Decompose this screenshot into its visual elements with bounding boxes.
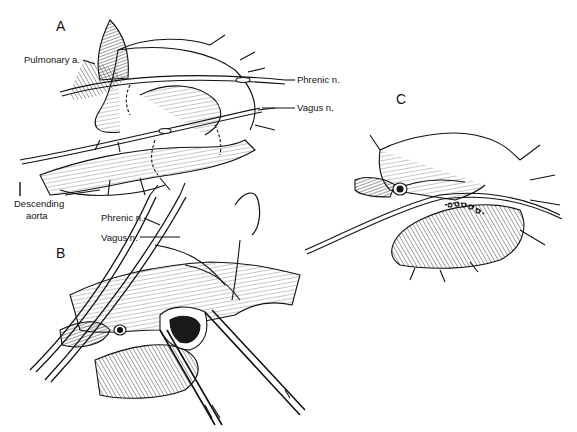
panel-letter-a: A xyxy=(56,18,65,34)
panel-c-drawing xyxy=(305,133,562,282)
panel-b-drawing xyxy=(30,183,305,425)
surgical-illustration: A B C Pulmonary a. Phrenic n. Vagus n. D… xyxy=(0,0,577,432)
panel-letter-b: B xyxy=(56,245,65,261)
illustration-artwork xyxy=(0,0,577,432)
label-descending-aorta-line2: aorta xyxy=(26,210,48,221)
label-phrenic-nerve-b: Phrenic n. xyxy=(101,212,144,223)
label-pulmonary-artery: Pulmonary a. xyxy=(24,54,80,65)
label-vagus-nerve-a: Vagus n. xyxy=(297,102,334,113)
label-descending-aorta-line1: Descending xyxy=(14,198,64,209)
label-vagus-nerve-b: Vagus n. xyxy=(101,232,138,243)
panel-a-drawing xyxy=(20,20,295,196)
panel-letter-c: C xyxy=(396,91,406,107)
label-phrenic-nerve-a: Phrenic n. xyxy=(297,74,340,85)
